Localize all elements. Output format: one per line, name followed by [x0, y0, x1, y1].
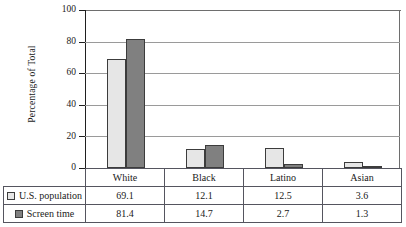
y-tick-label-20: 20	[50, 132, 76, 142]
plot-area	[85, 10, 400, 168]
cell-screen-time-latino: 2.7	[244, 205, 323, 223]
y-tick-label-60: 60	[50, 68, 76, 78]
legend-entry-us-population: U.S. population	[4, 187, 86, 205]
bar-group-black	[164, 10, 243, 168]
bar-screen-time-white	[126, 39, 145, 168]
cell-screen-time-black: 14.7	[165, 205, 244, 223]
y-tick-label-40: 40	[50, 100, 76, 110]
column-header-black: Black	[165, 169, 244, 187]
table-header-row: White Black Latino Asian	[4, 169, 402, 187]
y-axis-title: Percentage of Total	[27, 19, 37, 149]
bar-us-population-latino	[265, 148, 284, 168]
chart-data-table: White Black Latino Asian U.S. population…	[3, 168, 402, 223]
cell-us-population-black: 12.1	[165, 187, 244, 205]
column-header-white: White	[86, 169, 165, 187]
legend-entry-screen-time: Screen time	[4, 205, 86, 223]
column-header-latino: Latino	[244, 169, 323, 187]
column-header-asian: Asian	[323, 169, 402, 187]
cell-us-population-asian: 3.6	[323, 187, 402, 205]
cell-us-population-latino: 12.5	[244, 187, 323, 205]
light-gray-swatch-icon	[7, 192, 15, 200]
y-tick-label-100: 100	[50, 5, 76, 15]
bar-us-population-white	[107, 59, 126, 168]
bar-group-asian	[322, 10, 401, 168]
cell-screen-time-white: 81.4	[86, 205, 165, 223]
table-corner-cell	[4, 169, 86, 187]
bar-screen-time-black	[205, 145, 224, 168]
cell-screen-time-asian: 1.3	[323, 205, 402, 223]
table-row: U.S. population 69.1 12.1 12.5 3.6	[4, 187, 402, 205]
cell-us-population-white: 69.1	[86, 187, 165, 205]
dark-gray-swatch-icon	[15, 210, 23, 218]
legend-label-us-population: U.S. population	[19, 190, 82, 201]
table-row: Screen time 81.4 14.7 2.7 1.3	[4, 205, 402, 223]
bar-group-latino	[243, 10, 322, 168]
bar-chart-figure: Percentage of Total 100 80 60 40 20 0	[0, 0, 406, 227]
legend-label-screen-time: Screen time	[27, 208, 74, 219]
y-tick-label-80: 80	[50, 37, 76, 47]
bar-group-white	[85, 10, 164, 168]
bar-us-population-black	[186, 149, 205, 168]
